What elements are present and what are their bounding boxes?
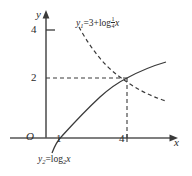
curve-label-y2: y2=log2x [38, 155, 70, 165]
x-tick-label-4: 4 [119, 133, 125, 144]
log-function-graph-figure: y x O 4 2 1 4 y1=3+log14x y2=log2x [0, 0, 192, 176]
y2-base: 2 [63, 158, 66, 165]
y-tick-label-4: 4 [31, 24, 37, 35]
y2-expression: =log [45, 154, 63, 164]
curve-label-y1: y1=3+log14x [76, 14, 119, 29]
y-axis-label: y [36, 9, 41, 20]
curve-y2-solid [52, 62, 166, 153]
y1-subscript: 1 [80, 22, 83, 29]
y2-argument: x [66, 154, 70, 164]
origin-label: O [26, 131, 34, 142]
x-tick-label-1: 1 [56, 133, 62, 144]
x-axis-label: x [174, 137, 179, 148]
y1-base-denominator: 4 [111, 23, 115, 29]
y-axis-arrow-icon [43, 10, 50, 19]
y2-subscript: 2 [42, 158, 45, 165]
y1-argument: x [115, 18, 119, 28]
y1-base-numerator: 1 [111, 16, 115, 23]
y-tick-label-2: 2 [31, 72, 37, 83]
y1-base-fraction: 14 [111, 16, 115, 29]
y1-expression: =3+log [83, 18, 111, 28]
curve-y1-dashed [79, 27, 166, 101]
